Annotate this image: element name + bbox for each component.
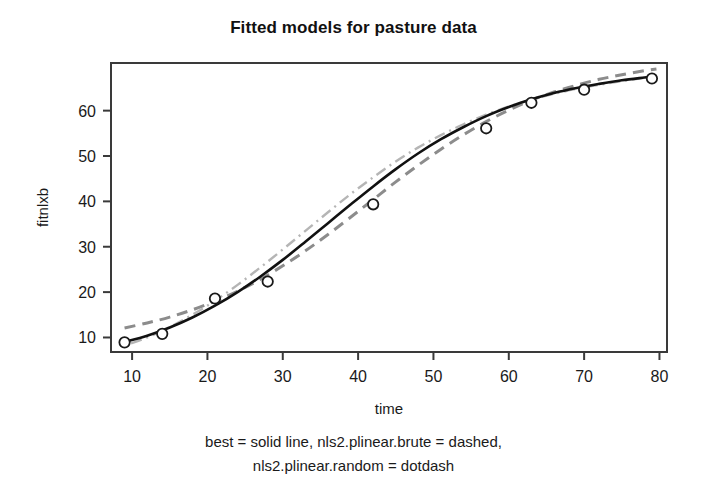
x-tick-label: 10 bbox=[123, 368, 141, 385]
series-group bbox=[125, 69, 657, 346]
data-point-marker bbox=[647, 73, 657, 83]
y-tick-label: 20 bbox=[78, 284, 96, 301]
x-tick-label: 60 bbox=[500, 368, 518, 385]
data-point-marker bbox=[579, 84, 589, 94]
y-tick-label: 60 bbox=[78, 103, 96, 120]
data-point-marker bbox=[119, 337, 129, 347]
x-tick-label: 30 bbox=[274, 368, 292, 385]
y-tick-label: 10 bbox=[78, 329, 96, 346]
series-line-best bbox=[125, 76, 657, 342]
data-point-marker bbox=[210, 293, 220, 303]
x-tick-label: 80 bbox=[651, 368, 669, 385]
legend-caption-line-2: nls2.plinear.random = dotdash bbox=[0, 456, 707, 476]
y-tick-label: 50 bbox=[78, 148, 96, 165]
x-axis-label: time bbox=[375, 400, 403, 417]
data-point-marker bbox=[157, 329, 167, 339]
y-tick-label: 30 bbox=[78, 239, 96, 256]
series-line-nls2.plinear.random bbox=[125, 77, 657, 346]
chart-figure: Fitted models for pasture data 102030405… bbox=[0, 0, 707, 498]
y-axis-label: fitnlxb bbox=[34, 188, 51, 227]
data-point-marker bbox=[481, 123, 491, 133]
x-tick-label: 70 bbox=[575, 368, 593, 385]
x-tick-label: 40 bbox=[349, 368, 367, 385]
y-tick-label: 40 bbox=[78, 193, 96, 210]
x-tick-label: 20 bbox=[199, 368, 217, 385]
plot-area: 1020304050607080102030405060timefitnlxb bbox=[0, 0, 707, 498]
legend-caption-line-1: best = solid line, nls2.plinear.brute = … bbox=[0, 432, 707, 452]
data-point-marker bbox=[263, 276, 273, 286]
x-tick-label: 50 bbox=[425, 368, 443, 385]
data-point-marker bbox=[526, 98, 536, 108]
series-line-nls2.plinear.brute bbox=[125, 69, 657, 328]
data-point-marker bbox=[368, 199, 378, 209]
